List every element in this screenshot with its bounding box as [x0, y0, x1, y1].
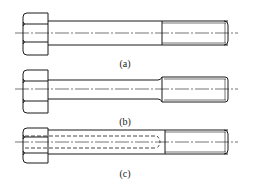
- bolt-a: [15, 13, 238, 55]
- bolt-drawings: [0, 0, 253, 188]
- label-a: (a): [119, 58, 130, 69]
- bolt-b: [15, 70, 238, 113]
- label-c: (c): [119, 168, 130, 179]
- bolt-c: [15, 128, 238, 163]
- label-b: (b): [119, 116, 131, 127]
